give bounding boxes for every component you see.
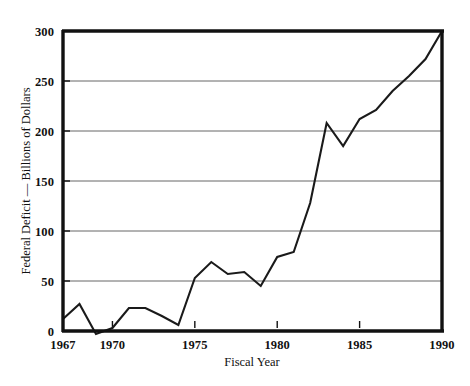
y-tick-label: 250 [35, 75, 54, 89]
y-tick-label: 150 [35, 175, 54, 189]
y-axis-title: Federal Deficit — Billions of Dollars [19, 87, 33, 274]
y-tick-label: 0 [48, 325, 54, 339]
y-tick-label: 100 [35, 225, 54, 239]
x-tick-label: 1990 [429, 338, 454, 352]
y-tick-label: 50 [41, 275, 54, 289]
federal-deficit-line-chart: 300250200150100500 196719701975198019851… [0, 0, 470, 386]
chart-figure: 300250200150100500 196719701975198019851… [0, 0, 470, 386]
x-tick-label: 1970 [100, 338, 125, 352]
y-tick-label: 200 [35, 125, 54, 139]
y-tick-label: 300 [35, 25, 54, 39]
x-tick-label: 1975 [182, 338, 207, 352]
x-tick-label: 1980 [265, 338, 290, 352]
x-tick-label: 1967 [50, 338, 75, 352]
x-tick-label: 1985 [347, 338, 372, 352]
x-axis-title: Fiscal Year [224, 355, 280, 369]
